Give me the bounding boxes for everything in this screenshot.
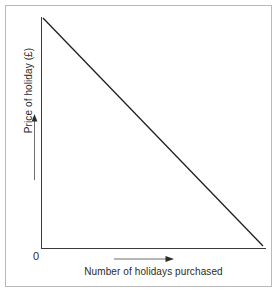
demand-curve-figure: 0 Price of holiday (£) Number of holiday… bbox=[0, 0, 278, 294]
arrow-up-icon bbox=[31, 114, 38, 181]
figure-border bbox=[5, 5, 272, 287]
arrow-right-icon bbox=[114, 255, 174, 263]
x-axis-line bbox=[41, 248, 266, 249]
y-axis-line bbox=[41, 17, 42, 249]
origin-label: 0 bbox=[33, 250, 39, 263]
x-axis-label: Number of holidays purchased bbox=[41, 266, 266, 277]
